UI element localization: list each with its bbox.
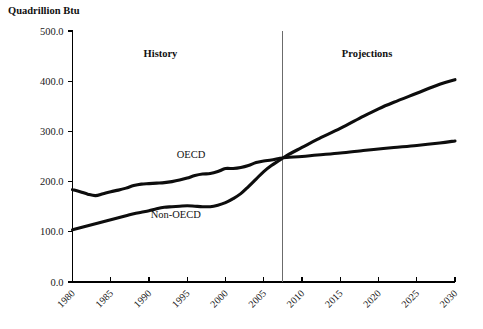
x-tick-label: 2010: [284, 288, 306, 310]
y-tick-label: 500.0: [40, 26, 64, 37]
x-tick-label: 2025: [399, 288, 421, 310]
annotation-projections: Projections: [342, 48, 393, 59]
series-line-oecd: [73, 141, 456, 196]
x-tick-label: 2015: [323, 288, 345, 310]
y-tick-label: 200.0: [40, 176, 64, 187]
energy-consumption-line-chart: Quadrillion Btu 0.0100.0200.0300.0400.05…: [0, 0, 483, 329]
series-line-non-oecd: [73, 80, 456, 230]
x-tick-label: 1990: [131, 288, 153, 310]
x-tick-label: 2030: [437, 288, 459, 310]
y-tick-label: 0.0: [50, 277, 63, 288]
x-tick-label: 2020: [361, 288, 383, 310]
x-tick-label: 1995: [170, 288, 192, 310]
y-tick-label: 400.0: [40, 76, 64, 87]
x-tick-label: 1985: [93, 288, 115, 310]
y-axis-ticks: 0.0100.0200.0300.0400.0500.0: [40, 26, 73, 288]
chart-annotations: HistoryProjectionsOECDNon-OECD: [144, 48, 393, 220]
x-tick-label: 2000: [208, 288, 230, 310]
y-tick-label: 300.0: [40, 126, 64, 137]
chart-canvas: Quadrillion Btu 0.0100.0200.0300.0400.05…: [0, 0, 483, 329]
annotation-non-oecd: Non-OECD: [151, 209, 202, 220]
annotation-oecd: OECD: [177, 149, 206, 160]
x-tick-label: 2005: [246, 288, 268, 310]
y-tick-label: 100.0: [40, 226, 64, 237]
x-tick-label: 1980: [55, 288, 77, 310]
annotation-history: History: [144, 48, 179, 59]
chart-title: Quadrillion Btu: [8, 5, 80, 16]
data-series-group: [73, 80, 456, 230]
